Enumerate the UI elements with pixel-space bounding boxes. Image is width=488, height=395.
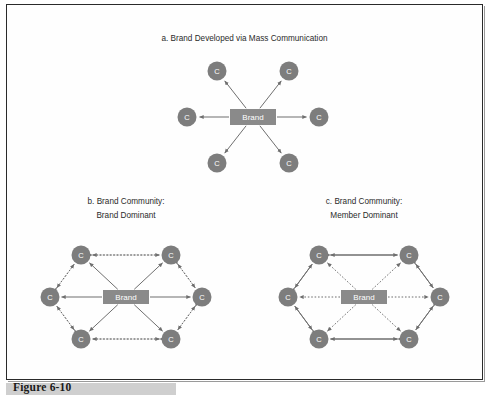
brand-node-label: Brand — [353, 293, 374, 302]
member-node-label: C — [437, 293, 443, 302]
edge-dotted — [327, 263, 355, 289]
member-node-label: C — [406, 251, 412, 260]
member-node-label: C — [168, 335, 174, 344]
edge-solid — [89, 305, 117, 331]
member-node: C — [72, 330, 91, 349]
panel-a-title: a. Brand Developed via Mass Communicatio… — [161, 34, 327, 43]
member-node-label: C — [168, 251, 174, 260]
member-node: C — [279, 288, 298, 307]
member-node: C — [162, 246, 181, 265]
member-node: C — [431, 288, 450, 307]
panel-c: c. Brand Community: Member Dominant Bran… — [245, 187, 483, 379]
member-node: C — [310, 330, 329, 349]
edge-solid-reverse — [295, 306, 312, 329]
member-node-label: C — [47, 293, 53, 302]
member-node-label: C — [316, 251, 322, 260]
brand-node: Brand — [341, 290, 387, 304]
member-node: C — [280, 154, 299, 173]
edge-solid — [134, 263, 162, 289]
member-node: C — [41, 288, 60, 307]
member-node: C — [400, 246, 419, 265]
edge-solid — [89, 263, 117, 289]
member-node: C — [310, 246, 329, 265]
member-node: C — [208, 154, 227, 173]
brand-node: Brand — [230, 109, 276, 125]
edge-dotted-reverse — [178, 306, 195, 329]
edge-dotted-reverse — [57, 264, 74, 287]
figure-caption-bar: Figure 6-10 — [6, 383, 176, 395]
member-node-label: C — [285, 293, 291, 302]
member-node: C — [72, 246, 91, 265]
member-node: C — [193, 288, 212, 307]
member-node-label: C — [184, 113, 190, 122]
edge-solid — [225, 81, 246, 108]
member-node: C — [208, 62, 227, 81]
panel-c-title-line2: Member Dominant — [330, 211, 397, 220]
member-node-label: C — [78, 335, 84, 344]
member-node: C — [178, 108, 197, 127]
member-node-label: C — [286, 67, 292, 76]
member-node-label: C — [78, 251, 84, 260]
member-node-label: C — [316, 113, 322, 122]
edge-solid — [260, 81, 281, 108]
member-node-label: C — [214, 159, 220, 168]
member-node-label: C — [406, 335, 412, 344]
panel-b-title-line1: b. Brand Community: — [88, 197, 165, 206]
edge-solid — [225, 126, 246, 153]
member-node: C — [310, 108, 329, 127]
member-node: C — [400, 330, 419, 349]
edge-solid-reverse — [416, 306, 433, 329]
panel-b-title-line2: Brand Dominant — [96, 211, 155, 220]
member-node: C — [280, 62, 299, 81]
member-node-label: C — [316, 335, 322, 344]
edge-dotted-reverse — [178, 264, 195, 287]
panel-b: b. Brand Community: Brand Dominant Brand… — [7, 187, 245, 379]
member-node-label: C — [286, 159, 292, 168]
panel-c-title-line1: c. Brand Community: — [326, 197, 402, 206]
edge-solid — [134, 305, 162, 331]
member-node-label: C — [199, 293, 205, 302]
edge-dotted — [372, 305, 400, 331]
edge-solid-reverse — [295, 264, 312, 287]
edge-solid-reverse — [416, 264, 433, 287]
edge-solid — [260, 126, 281, 153]
member-node: C — [162, 330, 181, 349]
figure-frame: a. Brand Developed via Mass Communicatio… — [6, 4, 483, 380]
brand-node-label: Brand — [242, 113, 263, 122]
figure-caption: Figure 6-10 — [13, 383, 72, 393]
panel-a: a. Brand Developed via Mass Communicatio… — [7, 5, 482, 185]
brand-node-label: Brand — [115, 293, 136, 302]
edge-dotted-reverse — [57, 306, 74, 329]
figure-root: a. Brand Developed via Mass Communicatio… — [0, 0, 488, 395]
edge-dotted — [372, 263, 400, 289]
brand-node: Brand — [103, 290, 149, 304]
edge-dotted — [327, 305, 355, 331]
member-node-label: C — [214, 67, 220, 76]
